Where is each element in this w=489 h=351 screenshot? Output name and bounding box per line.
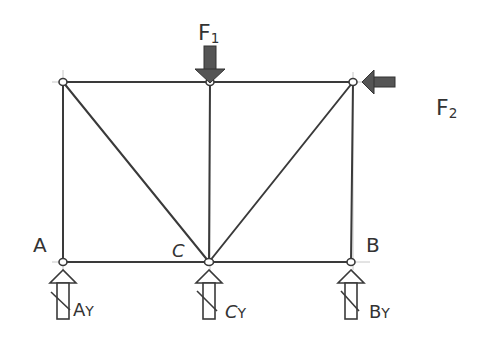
joint-top-left [59,79,67,86]
label-f2-sub: 2 [449,105,458,121]
joint-c [205,259,214,266]
label-by-main: B [369,301,381,322]
label-reaction-by: BY [369,303,390,321]
label-f2: F2 [436,97,457,121]
joint-b [347,259,355,266]
label-node-c: C [172,242,185,260]
label-f1-main: F [198,20,211,45]
label-ay-sub: Y [85,303,94,319]
label-by-sub: Y [381,305,390,321]
label-reaction-ay: AY [73,301,94,319]
truss-members [63,82,353,262]
label-reaction-cy: CY [225,303,246,321]
member-diagonal-left [63,82,209,262]
construction-lines [52,70,370,272]
member-diagonal-right [209,82,353,262]
label-f1: F1 [198,22,219,46]
load-arrow-f1-icon [195,46,225,83]
label-ay-main: A [73,299,85,320]
label-cy-sub: Y [238,305,247,321]
label-f2-main: F [436,95,449,120]
load-arrow-f2-icon [362,70,395,94]
reaction-arrow-by-icon [338,270,364,319]
label-f1-sub: 1 [211,30,220,46]
label-cy-main: C [225,301,238,322]
joint-top-right [349,79,357,86]
joint-a [59,259,67,266]
label-node-b: B [366,235,380,255]
label-node-a: A [33,235,47,255]
truss-joints [59,79,357,266]
reaction-arrow-cy-icon [196,270,222,319]
member-vertical-middle [209,82,210,262]
